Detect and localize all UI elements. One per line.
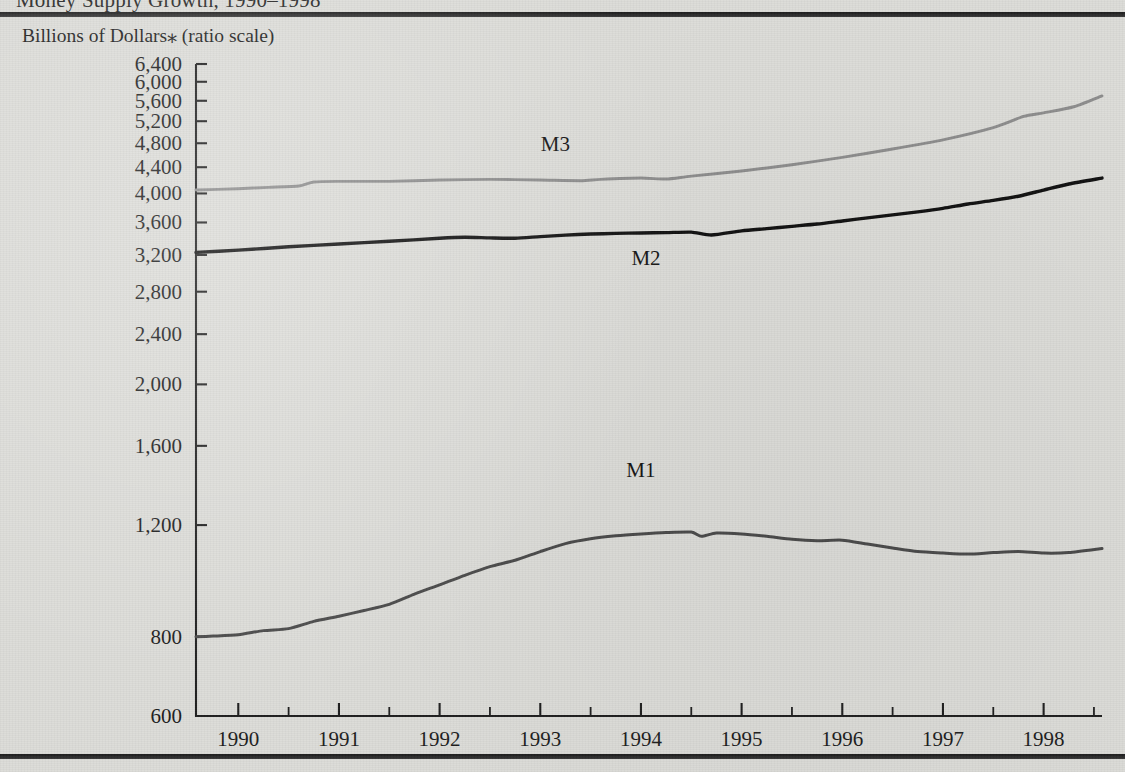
- x-tick-label: 1998: [1023, 727, 1065, 751]
- y-tick-label: 4,400: [135, 155, 182, 179]
- money-supply-line-chart: 6,4006,0005,6005,2004,8004,4004,0003,600…: [0, 0, 1125, 772]
- x-tick-label: 1990: [217, 727, 259, 751]
- y-tick-label: 2,000: [135, 372, 182, 396]
- series-line-m2: [196, 178, 1102, 252]
- y-axis-labels: 6,4006,0005,6005,2004,8004,4004,0003,600…: [135, 52, 182, 728]
- x-axis-labels: 199019911992199319941995199619971998: [217, 727, 1064, 751]
- y-tick-label: 800: [151, 625, 183, 649]
- series-label-m1: M1: [626, 458, 655, 482]
- x-tick-label: 1994: [620, 727, 663, 751]
- series-line-m3: [196, 96, 1102, 190]
- y-tick-label: 2,800: [135, 280, 182, 304]
- y-tick-label: 1,600: [135, 434, 182, 458]
- x-tick-label: 1996: [821, 727, 863, 751]
- x-tick-label: 1997: [922, 727, 964, 751]
- x-tick-label: 1992: [419, 727, 461, 751]
- y-tick-label: 600: [151, 704, 183, 728]
- y-tick-label: 1,200: [135, 513, 182, 537]
- chart-plot-area: 6,4006,0005,6005,2004,8004,4004,0003,600…: [0, 0, 1125, 772]
- x-axis-ticks: [238, 703, 1094, 716]
- figure-page: Money Supply Growth, 1990–1998 Billions …: [0, 0, 1125, 772]
- y-tick-label: 3,200: [135, 243, 182, 267]
- x-tick-label: 1991: [318, 727, 360, 751]
- y-tick-label: 4,800: [135, 131, 182, 155]
- series-line-m1: [196, 532, 1102, 637]
- y-tick-label: 2,400: [135, 322, 182, 346]
- y-tick-label: 5,200: [135, 109, 182, 133]
- data-series-lines: [196, 96, 1102, 637]
- x-tick-label: 1995: [721, 727, 763, 751]
- y-axis-ticks: [196, 64, 207, 637]
- series-label-m3: M3: [541, 132, 570, 156]
- bottom-rule: [0, 754, 1125, 759]
- series-inline-labels: M1M2M3: [541, 132, 661, 481]
- x-tick-label: 1993: [519, 727, 561, 751]
- y-tick-label: 3,600: [135, 210, 182, 234]
- series-label-m2: M2: [631, 246, 660, 270]
- y-tick-label: 4,000: [135, 181, 182, 205]
